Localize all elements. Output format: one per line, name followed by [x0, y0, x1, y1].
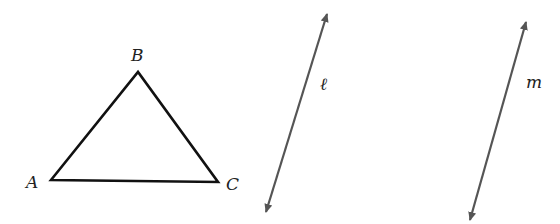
line-m — [470, 22, 526, 220]
line-label-l: ℓ — [320, 74, 327, 94]
vertex-label-a: A — [24, 172, 38, 192]
triangle-abc — [51, 72, 218, 182]
vertex-label-c: C — [226, 174, 239, 194]
diagram-svg: A B C ℓ m — [0, 0, 560, 224]
vertex-label-b: B — [130, 45, 144, 65]
line-label-m: m — [526, 72, 542, 92]
line-l — [266, 14, 327, 212]
geometry-diagram: A B C ℓ m — [0, 0, 560, 224]
